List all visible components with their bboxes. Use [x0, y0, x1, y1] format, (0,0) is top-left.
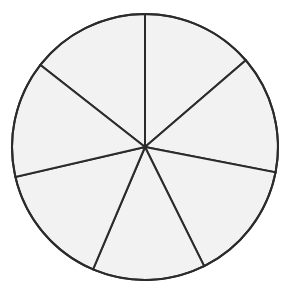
pie-chart-svg	[0, 0, 291, 296]
pie-sectors-group	[12, 14, 278, 280]
fraction-circle-figure	[0, 0, 291, 296]
